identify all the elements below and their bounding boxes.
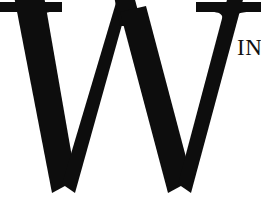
image-canvas: IN <box>0 0 261 197</box>
wordmark-w-glyph <box>0 0 261 197</box>
wordmark-secondary-text: IN <box>237 36 261 62</box>
